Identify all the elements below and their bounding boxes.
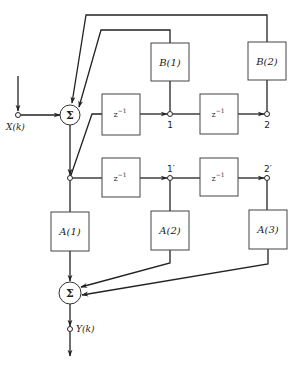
coefficient-box-b1: B(1) — [151, 43, 189, 81]
coefficient-label: A(2) — [158, 225, 180, 236]
node-2-label: 2 — [264, 120, 270, 130]
coefficient-label: B(1) — [158, 57, 181, 68]
coefficient-label: B(2) — [255, 56, 278, 67]
wire-a3-to-sum — [82, 249, 268, 295]
coefficient-box-a2: A(2) — [151, 211, 189, 250]
coefficient-label: A(1) — [58, 226, 80, 237]
summing-junction-feedback: Σ — [60, 105, 80, 125]
node-2-prime-label: 2′ — [264, 164, 272, 174]
node-1 — [168, 112, 173, 117]
summing-junction-output: Σ — [59, 282, 81, 304]
coefficient-box-a1: A(1) — [51, 212, 89, 251]
block-diagram: B(1) B(2) z−1 z−1 z−1 z−1 A(1) A(2) A(3)… — [0, 0, 302, 367]
delay-box-upper-1: z−1 — [102, 94, 140, 135]
wire-a2-to-sum — [81, 250, 170, 287]
node-1-label: 1 — [167, 120, 173, 130]
input-node — [16, 113, 21, 118]
delay-box-lower-1: z−1 — [102, 158, 140, 197]
node-1-prime — [168, 176, 173, 181]
branch-node — [68, 176, 73, 181]
node-2 — [265, 112, 270, 117]
node-2-prime — [265, 176, 270, 181]
coefficient-label: A(3) — [256, 224, 278, 235]
input-label: X(k) — [5, 122, 25, 132]
delay-box-upper-2: z−1 — [200, 94, 238, 134]
node-1-prime-label: 1′ — [167, 164, 175, 174]
coefficient-box-a3: A(3) — [249, 210, 287, 249]
delay-box-lower-2: z−1 — [200, 158, 238, 196]
coefficient-box-b2: B(2) — [248, 42, 286, 80]
output-node — [68, 327, 73, 332]
sigma-icon: Σ — [66, 109, 74, 122]
output-label: Y(k) — [76, 324, 95, 334]
sigma-icon: Σ — [66, 287, 74, 300]
